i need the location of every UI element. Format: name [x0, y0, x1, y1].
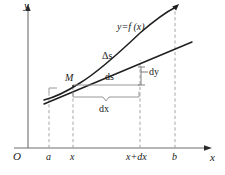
point-m-marker: [72, 85, 74, 87]
dx-label: dx: [99, 104, 109, 114]
dy-label: dy: [149, 67, 159, 77]
curve-arrowhead: [172, 4, 179, 11]
y-axis-label: y: [24, 0, 29, 11]
curve-equation-label: y=f (x): [117, 22, 145, 32]
x-tick-label-b: b: [172, 152, 177, 162]
x-tick-label-x: x: [70, 152, 74, 162]
differential-figure: y x O a x x+dx b y=f (x) Δs M ds dy dx: [0, 0, 225, 175]
figure-canvas: [0, 0, 225, 175]
x-axis-arrowhead: [204, 145, 212, 151]
ds-label: ds: [105, 72, 114, 82]
delta-s-label: Δs: [102, 51, 112, 61]
x-axis-label: x: [210, 152, 215, 163]
x-tick-label-x-plus-dx: x+dx: [126, 152, 147, 162]
dx-brace-path: [73, 92, 139, 101]
point-m-label: M: [65, 73, 73, 83]
dy-measure-group: [138, 67, 148, 85]
x-tick-label-a: a: [46, 152, 51, 162]
left-ordinate-bracket: [49, 88, 57, 93]
origin-label: O: [13, 151, 21, 162]
dx-brace-group: [73, 92, 139, 101]
left-bracket-path: [49, 88, 57, 93]
